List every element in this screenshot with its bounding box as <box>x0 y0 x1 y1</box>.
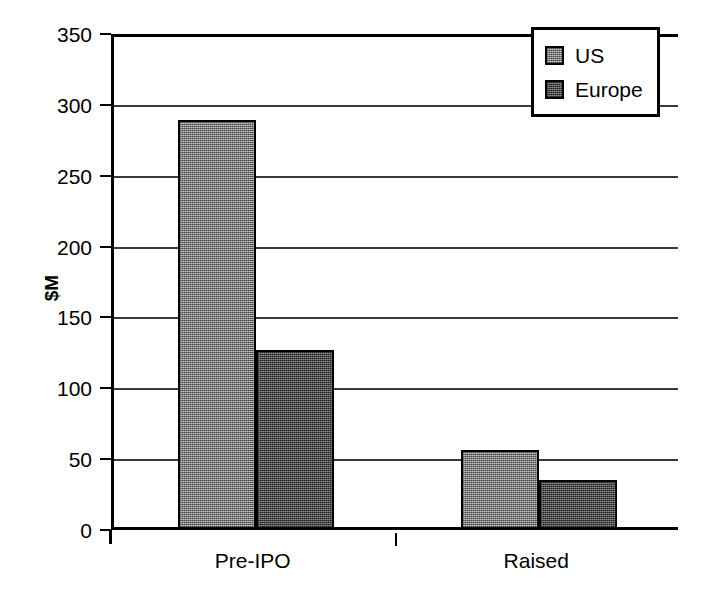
x-axis-category-label: Pre-IPO <box>215 549 291 573</box>
legend-entry-us[interactable]: US <box>545 38 643 72</box>
y-axis-tick-label: 300 <box>30 94 92 115</box>
bar-europe-pre-ipo <box>256 350 334 527</box>
legend-label: US <box>575 45 604 66</box>
y-axis-baseline-extension <box>109 530 112 544</box>
x-axis-category-label: Raised <box>504 549 569 573</box>
chart-legend: USEurope <box>531 27 660 117</box>
y-axis-tick-label: 0 <box>30 520 92 541</box>
y-axis-tick-label: 250 <box>30 165 92 186</box>
y-axis-tick-label: 200 <box>30 236 92 257</box>
bar-europe-raised <box>539 480 617 527</box>
bar-us-pre-ipo <box>178 120 256 527</box>
y-axis-tick-label: 50 <box>30 449 92 470</box>
y-axis-tick-mark <box>100 316 111 318</box>
y-axis-tick-labels: 050100150200250300350 <box>30 0 92 594</box>
x-axis-tick-mark <box>395 533 397 546</box>
y-axis-tick-mark <box>100 175 111 177</box>
y-axis-tick-mark <box>100 458 111 460</box>
legend-swatch-icon <box>545 46 564 65</box>
y-axis-tick-label: 350 <box>30 24 92 45</box>
legend-swatch-icon <box>545 80 564 99</box>
y-axis-tick-mark <box>100 33 111 35</box>
legend-label: Europe <box>575 79 643 100</box>
bar-us-raised <box>461 450 539 527</box>
y-axis-tick-mark <box>100 104 111 106</box>
y-axis-tick-label: 100 <box>30 378 92 399</box>
y-axis-tick-label: 150 <box>30 307 92 328</box>
legend-entry-europe[interactable]: Europe <box>545 72 643 106</box>
y-axis-tick-mark <box>100 246 111 248</box>
y-axis-tick-mark <box>100 387 111 389</box>
bar-chart: $M 050100150200250300350 Pre-IPORaised U… <box>0 0 708 594</box>
